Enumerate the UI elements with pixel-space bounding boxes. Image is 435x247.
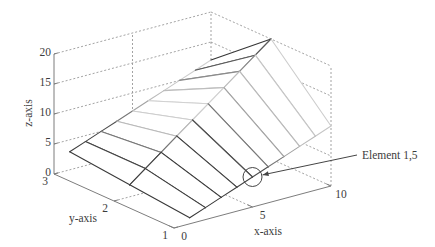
y-axis-label: y-axis [69, 212, 98, 225]
x-axis-label: x-axis [254, 225, 283, 237]
z-tick-mark [54, 143, 58, 144]
z-tick-mark [54, 113, 58, 114]
mesh-figure: 051015201230510 z-axis y-axis x-axis Ele… [0, 0, 435, 247]
x-tick-label: 10 [335, 188, 347, 200]
y-tick-mark [54, 173, 58, 174]
z-tick-mark [54, 53, 58, 54]
y-tick-label: 1 [162, 229, 168, 241]
x-tick-mark [248, 205, 253, 207]
y-tick-mark [174, 227, 178, 228]
z-tick-label: 20 [40, 46, 52, 58]
mesh-surface [70, 39, 331, 218]
x-tick-label: 0 [181, 230, 187, 242]
arrowhead-icon [263, 171, 269, 176]
z-tick-mark [54, 83, 58, 84]
y-tick-label: 3 [42, 175, 48, 187]
annotation-label: Element 1,5 [362, 149, 418, 162]
x-tick-label: 5 [260, 209, 266, 221]
mesh-plot: 051015201230510 z-axis y-axis x-axis Ele… [0, 0, 435, 247]
x-tick-mark [169, 226, 174, 228]
z-axis-label: z-axis [22, 99, 34, 127]
x-tick-mark [326, 184, 331, 186]
y-tick-mark [114, 200, 118, 201]
z-tick-label: 15 [40, 76, 52, 88]
z-tick-label: 5 [45, 136, 51, 148]
z-tick-label: 10 [40, 106, 52, 118]
y-tick-label: 2 [102, 202, 108, 214]
